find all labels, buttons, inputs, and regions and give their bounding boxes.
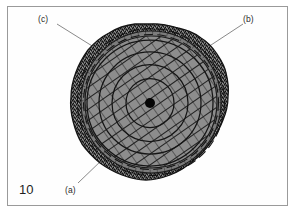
figure-number: 10: [19, 182, 33, 197]
leader-line-c: [57, 24, 97, 49]
callout-label-b: (b): [243, 14, 254, 24]
center-dot: [145, 98, 155, 108]
leader-line-b: [208, 24, 243, 47]
callout-label-c: (c): [38, 14, 48, 24]
callout-label-a: (a): [65, 185, 76, 195]
figure-container: (c) (b) (a) 10: [0, 0, 297, 215]
figure-illustration: [0, 0, 297, 215]
